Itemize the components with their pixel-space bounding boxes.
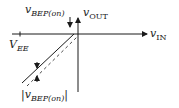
- vee-label: VEE: [9, 38, 29, 53]
- y-axis-label: vOUT: [83, 6, 109, 21]
- top-annotation-label: vBEP(on): [25, 3, 65, 18]
- transfer-diagram: vBEP(on) vOUT vIN VEE |vBEP(on)|: [0, 0, 179, 108]
- x-axis-label: vIN: [150, 27, 166, 42]
- transfer-line: [22, 34, 74, 83]
- bottom-annotation-label: |vBEP(on)|: [21, 88, 68, 103]
- ideal-line: [27, 37, 77, 86]
